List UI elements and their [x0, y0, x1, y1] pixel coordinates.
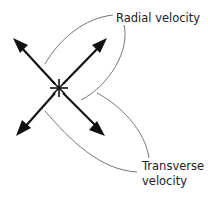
radial-leader-inner	[81, 25, 125, 100]
transverse-leader-inner	[97, 93, 149, 158]
transverse-velocity-label-line2: velocity	[142, 174, 187, 188]
arrow-up-left	[13, 38, 55, 84]
velocity-diagram: Radial velocity Transverse velocity	[0, 0, 208, 197]
radial-velocity-label: Radial velocity	[116, 11, 200, 25]
arrow-up-right	[63, 38, 107, 84]
arrow-down-right	[63, 93, 105, 136]
arrow-down-left	[16, 93, 55, 136]
transverse-velocity-label-line1: Transverse	[141, 159, 204, 173]
radial-leader-outer	[45, 15, 113, 64]
